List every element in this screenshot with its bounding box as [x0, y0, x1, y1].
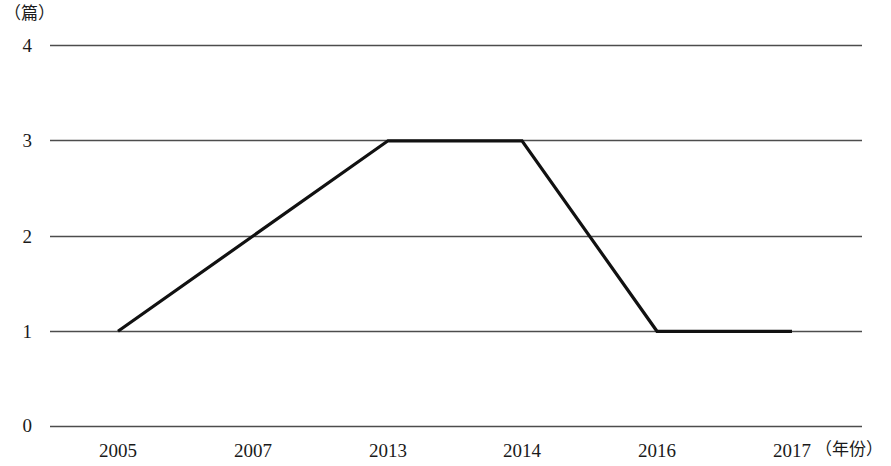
x-tick-label-2016: 2016 [625, 441, 689, 460]
plot-area [0, 0, 891, 466]
x-tick-label-2013: 2013 [356, 441, 420, 460]
gridlines [50, 46, 862, 427]
x-tick-label-2007: 2007 [221, 441, 285, 460]
line-chart: （篇） 4 3 2 1 0 2005 2007 2013 2014 2016 2… [0, 0, 891, 466]
x-tick-label-2014: 2014 [490, 441, 554, 460]
x-tick-label-2005: 2005 [86, 441, 150, 460]
x-axis-unit-label: （年份） [815, 441, 883, 458]
